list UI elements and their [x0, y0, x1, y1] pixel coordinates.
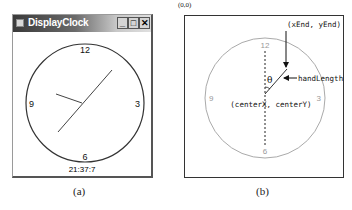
- center-label: (centerX, centerY): [230, 100, 311, 109]
- angle-arc: [265, 87, 270, 89]
- angle-theta-label: θ: [267, 75, 272, 85]
- caption-b: (b): [256, 185, 269, 197]
- number-6-b: 6: [263, 147, 268, 156]
- end-point-label: (xEnd, yEnd): [287, 20, 341, 29]
- number-3-b: 3: [317, 94, 322, 103]
- number-12-b: 12: [261, 41, 270, 50]
- hand-length-label: handLength: [298, 74, 343, 83]
- clock-diagram-b: 12 3 6 9 (xEnd, yEnd) handLength θ (cent…: [0, 0, 352, 210]
- number-9-b: 9: [209, 94, 214, 103]
